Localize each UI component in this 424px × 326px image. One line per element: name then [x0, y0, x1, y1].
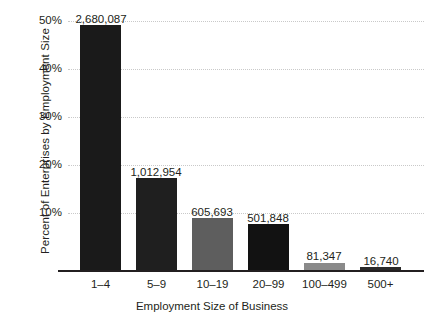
bar-100-499[interactable] [304, 263, 345, 270]
bar-1-4[interactable] [80, 25, 121, 270]
y-tick-label-20: 20% [24, 158, 62, 170]
bar-value-20-99: 501,848 [223, 212, 313, 224]
bar-value-5-9: 1,012,954 [110, 166, 202, 178]
bar-20-99[interactable] [248, 224, 289, 270]
bar-10-19[interactable] [192, 218, 233, 270]
x-axis-title: Employment Size of Business [0, 300, 424, 312]
y-tick-label-10: 10% [24, 206, 62, 218]
x-tick-label-500plus: 500+ [340, 278, 421, 290]
x-axis-line [58, 270, 424, 272]
y-axis-title: Percent of Enterprises by Employment Siz… [39, 16, 51, 266]
y-tick-label-30: 30% [24, 110, 62, 122]
gridline-30: 30% [68, 117, 424, 118]
bar-value-1-4: 2,680,087 [55, 13, 147, 25]
plot-area: 50% 40% 30% 20% 10% 2,680,087 1,012,954 … [68, 14, 424, 272]
bar-5-9[interactable] [136, 178, 177, 270]
bar-value-500plus: 16,740 [341, 255, 421, 267]
gridline-40: 40% [68, 69, 424, 70]
y-tick-label-40: 40% [24, 62, 62, 74]
bar-chart: Percent of Enterprises by Employment Siz… [0, 0, 424, 326]
